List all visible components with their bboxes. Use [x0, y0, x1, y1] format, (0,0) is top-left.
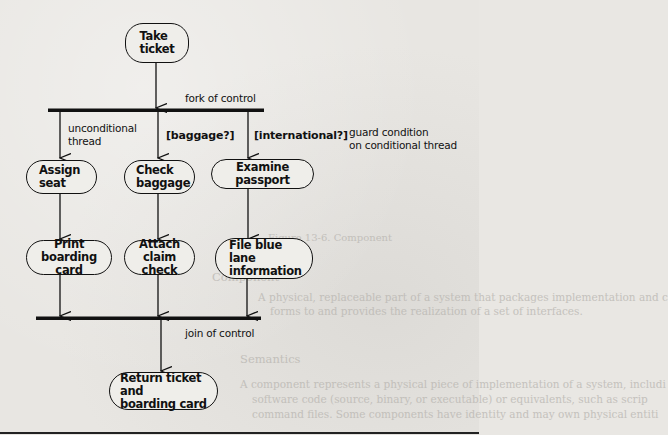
join-of-control-label: join of control	[185, 327, 254, 340]
action-attach-claim-check-label: Attach claim check	[128, 238, 191, 277]
fork-of-control-label: fork of control	[185, 92, 256, 105]
fork-bar	[48, 109, 264, 113]
action-examine-passport-label: Examine passport	[220, 161, 305, 187]
guard-baggage-label: [baggage?]	[166, 129, 234, 142]
action-examine-passport: Examine passport	[211, 159, 314, 189]
action-check-baggage-label: Check baggage	[136, 164, 190, 190]
action-file-blue-lane-label: File blue lane information	[229, 239, 304, 278]
action-assign-seat-label: Assign seat	[39, 164, 80, 190]
action-print-boarding-card-label: Print boarding card	[31, 238, 107, 277]
action-take-ticket-label: Take ticket	[139, 30, 174, 56]
action-check-baggage: Check baggage	[124, 160, 195, 194]
action-assign-seat: Assign seat	[26, 160, 97, 194]
action-file-blue-lane: File blue lane information	[215, 238, 313, 279]
action-take-ticket: Take ticket	[125, 23, 189, 63]
action-print-boarding-card: Print boarding card	[26, 240, 112, 275]
guard-international-label: [international?]	[254, 129, 348, 142]
unconditional-thread-label: unconditional thread	[68, 122, 137, 148]
action-return-ticket: Return ticket and boarding card	[109, 372, 218, 410]
action-attach-claim-check: Attach claim check	[124, 240, 195, 275]
join-bar	[36, 317, 261, 321]
guard-condition-note: guard condition on conditional thread	[349, 126, 457, 152]
page-bottom-rule	[0, 432, 479, 434]
action-return-ticket-label: Return ticket and boarding card	[120, 372, 209, 411]
